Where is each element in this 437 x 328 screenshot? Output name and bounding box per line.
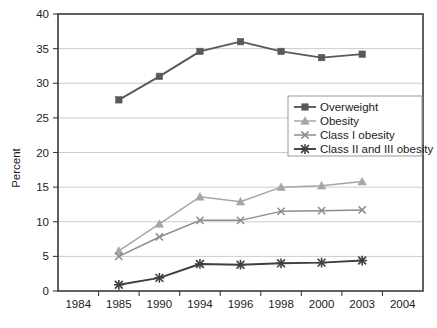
- data-point: [276, 258, 286, 268]
- x-axis-tick-label: 1998: [268, 298, 294, 310]
- y-axis-tick-label: 10: [36, 216, 49, 228]
- y-axis-tick-label: 5: [43, 250, 49, 262]
- x-axis-tick-label: 1984: [65, 298, 91, 310]
- data-point: [318, 54, 324, 60]
- data-point: [359, 51, 365, 57]
- x-axis-tick-label: 1990: [147, 298, 173, 310]
- x-axis-tick-label: 2004: [390, 298, 416, 310]
- x-axis-tick-labels: 198419851990199419961998200020032004: [65, 298, 416, 310]
- data-point: [197, 48, 203, 54]
- y-axis-tick-label: 35: [36, 43, 49, 55]
- chart-container: 0510152025303540 19841985199019941996199…: [0, 0, 437, 328]
- y-axis-title: Percent: [10, 147, 22, 187]
- data-point: [114, 280, 124, 290]
- legend-item-label: Class II and III obesity: [320, 143, 433, 155]
- data-point: [195, 259, 205, 269]
- legend-item-label: Overweight: [320, 101, 379, 113]
- x-axis-tick-label: 1996: [228, 298, 254, 310]
- y-axis-tick-label: 30: [36, 77, 49, 89]
- chart-legend: OverweightObesityClass I obesityClass II…: [288, 96, 433, 156]
- y-axis-tick-label: 20: [36, 147, 49, 159]
- data-point: [156, 73, 162, 79]
- y-axis-tick-label: 15: [36, 181, 49, 193]
- x-axis-tick-label: 2003: [349, 298, 375, 310]
- y-axis-tick-label: 25: [36, 112, 49, 124]
- legend-item-label: Class I obesity: [320, 129, 395, 141]
- y-axis-tick-label: 0: [43, 285, 49, 297]
- line-chart: 0510152025303540 19841985199019941996199…: [0, 0, 437, 328]
- data-point: [155, 273, 165, 283]
- data-point: [278, 48, 284, 54]
- data-point: [317, 258, 327, 268]
- data-point: [357, 256, 367, 266]
- data-point: [116, 97, 122, 103]
- data-point: [236, 260, 246, 270]
- x-axis-tick-label: 1994: [187, 298, 213, 310]
- y-axis-tick-label: 40: [36, 8, 49, 20]
- x-axis-tick-label: 2000: [309, 298, 335, 310]
- x-axis-tick-label: 1985: [106, 298, 132, 310]
- data-point: [237, 39, 243, 45]
- legend-item-label: Obesity: [320, 115, 359, 127]
- y-axis-tick-labels: 0510152025303540: [36, 8, 49, 297]
